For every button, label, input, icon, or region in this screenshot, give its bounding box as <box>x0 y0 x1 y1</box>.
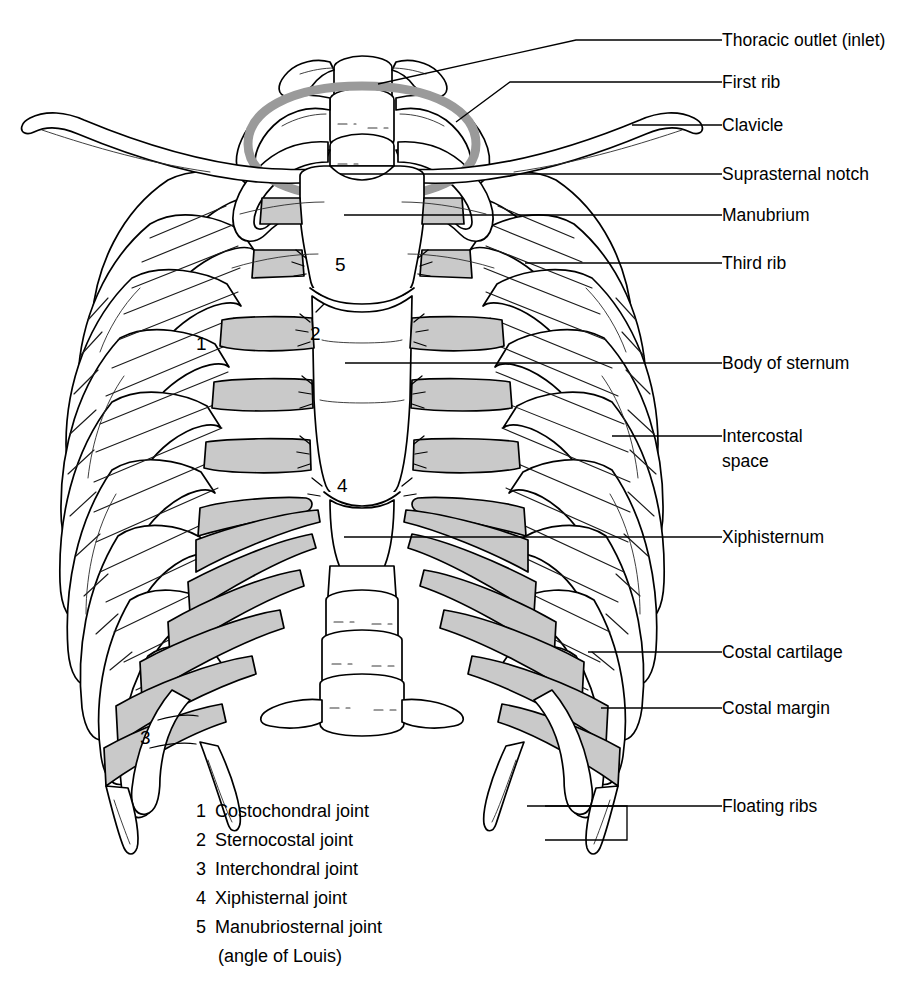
cartilage-left-4 <box>212 379 313 411</box>
cartilage-right-1 <box>422 198 464 224</box>
joint-marker-2: 2 <box>310 323 321 344</box>
label-first-rib: First rib <box>722 72 780 92</box>
legend-item-5: 5Manubriosternal joint <box>196 917 382 937</box>
label-manubrium: Manubrium <box>722 205 810 225</box>
legend-item-5-continuation: (angle of Louis) <box>218 946 342 966</box>
label-clavicle: Clavicle <box>722 115 783 135</box>
legend-item-3: 3Interchondral joint <box>196 859 358 879</box>
label-suprasternal-notch: Suprasternal notch <box>722 164 869 184</box>
joint-marker-1: 1 <box>196 333 207 354</box>
label-costal-cartilage: Costal cartilage <box>722 642 843 662</box>
label-third-rib: Third rib <box>722 253 786 273</box>
joint-marker-3: 3 <box>140 727 151 748</box>
cartilage-right-5 <box>413 439 520 473</box>
legend-item-1: 1Costochondral joint <box>196 801 369 821</box>
cartilage-left-1 <box>260 198 302 224</box>
body-of-sternum <box>312 296 412 500</box>
label-floating-ribs: Floating ribs <box>722 796 818 816</box>
label-intercostal-space-line2: space <box>722 451 769 471</box>
joint-marker-4: 4 <box>337 475 348 496</box>
label-intercostal-space: Intercostal <box>722 426 803 446</box>
legend-item-2: 2Sternocostal joint <box>196 830 353 850</box>
label-thoracic-outlet: Thoracic outlet (inlet) <box>722 30 885 50</box>
cartilage-left-5 <box>204 439 311 473</box>
label-xiphisternum: Xiphisternum <box>722 527 824 547</box>
joint-marker-5: 5 <box>335 254 346 275</box>
cartilage-right-4 <box>411 379 512 411</box>
label-body-of-sternum: Body of sternum <box>722 353 849 373</box>
figure-canvas: Thoracic outlet (inlet) First rib Clavic… <box>0 0 918 998</box>
label-costal-margin: Costal margin <box>722 698 830 718</box>
manubrium <box>300 166 424 296</box>
legend-item-4: 4Xiphisternal joint <box>196 888 347 908</box>
